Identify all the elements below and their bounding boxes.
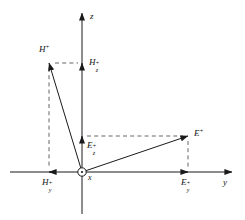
label-superscript: + bbox=[96, 60, 99, 66]
axis-label-y: y bbox=[223, 178, 227, 187]
vector-arrow-H-plus bbox=[49, 63, 82, 172]
component-label-hy-plus: Hy+ bbox=[42, 178, 52, 187]
label-base: E bbox=[194, 128, 200, 138]
dashed-projection-lines bbox=[49, 63, 188, 168]
origin-dot-icon bbox=[81, 171, 83, 173]
component-arrows bbox=[49, 63, 188, 172]
vector-arrow-E-plus bbox=[82, 136, 188, 172]
label-superscript: + bbox=[200, 128, 203, 134]
axis-label-x: x bbox=[88, 174, 92, 182]
field-vectors bbox=[49, 63, 188, 172]
label-superscript: + bbox=[187, 180, 190, 186]
label-superscript: + bbox=[93, 143, 96, 149]
label-subscript: y bbox=[49, 187, 52, 193]
diagram-svg bbox=[0, 0, 245, 220]
vector-label-e-plus: E+ bbox=[194, 128, 203, 138]
component-label-ez-plus: Ez+ bbox=[87, 141, 96, 150]
label-subscript: z bbox=[93, 150, 95, 156]
component-label-hz-plus: Hz+ bbox=[89, 58, 99, 67]
label-subscript: z bbox=[96, 67, 98, 73]
vector-label-h-plus: H+ bbox=[39, 44, 49, 54]
origin-x-out-of-page-symbol bbox=[78, 168, 86, 176]
label-subscript: y bbox=[187, 187, 190, 193]
vector-diagram-canvas: z y x H+ E+ Hz+ Hy+ Ez+ Ey+ bbox=[0, 0, 245, 220]
label-base: H bbox=[39, 44, 46, 54]
label-superscript: + bbox=[46, 44, 49, 50]
component-label-ey-plus: Ey+ bbox=[181, 178, 190, 187]
axis-label-z: z bbox=[90, 12, 94, 21]
label-superscript: + bbox=[49, 180, 52, 186]
